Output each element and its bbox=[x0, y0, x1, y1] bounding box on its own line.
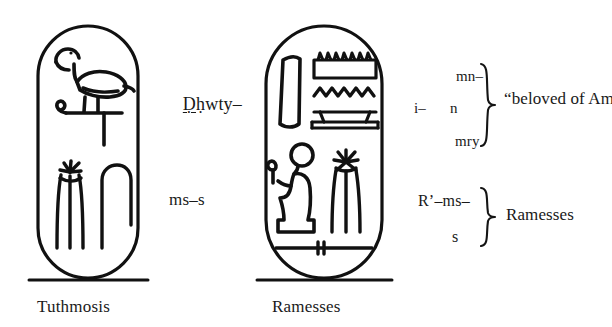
transliteration-n: n bbox=[450, 100, 458, 118]
transliteration-ra-ms: R’–ms– bbox=[418, 192, 470, 211]
transliteration-i: i– bbox=[414, 100, 426, 118]
water-ripple-n-glyph bbox=[314, 88, 374, 96]
cartouche-figure: Ḍḥwty– ms–s bbox=[0, 0, 612, 327]
blade-feather-glyph bbox=[280, 57, 300, 127]
cartouche-tuthmosis-drawing bbox=[30, 20, 150, 295]
caption-ramesses: Ramesses bbox=[272, 297, 341, 317]
right-curly-brace-icon-amon bbox=[478, 62, 498, 148]
cartouche-oval-outline bbox=[38, 26, 138, 278]
folded-cloth-glyph bbox=[102, 165, 131, 248]
cartouche-ramesses-drawing bbox=[258, 20, 394, 295]
three-fox-skins-glyph bbox=[332, 150, 360, 232]
right-curly-brace-icon-ramesses bbox=[478, 186, 498, 248]
gloss-beloved-of-amon: “beloved of Amon” bbox=[504, 88, 608, 110]
transliteration-ms-s: ms–s bbox=[169, 190, 205, 210]
seated-ra-figure-glyph bbox=[268, 144, 314, 232]
gloss-ramesses: Ramesses bbox=[506, 205, 574, 225]
ibis-on-standard-glyph bbox=[56, 49, 134, 145]
door-bolt-s-glyph bbox=[276, 242, 372, 254]
caption-tuthmosis: Tuthmosis bbox=[37, 297, 110, 317]
table-stand-glyph bbox=[312, 112, 378, 128]
game-board-mn-glyph bbox=[314, 53, 376, 78]
transliteration-mry: mry bbox=[455, 133, 480, 151]
cartouche-tuthmosis bbox=[30, 20, 150, 295]
three-fox-skins-glyph bbox=[57, 161, 83, 248]
transliteration-dhwty: Ḍḥwty– bbox=[164, 73, 242, 137]
transliteration-s: s bbox=[452, 228, 458, 247]
cartouche-ramesses bbox=[258, 20, 394, 295]
